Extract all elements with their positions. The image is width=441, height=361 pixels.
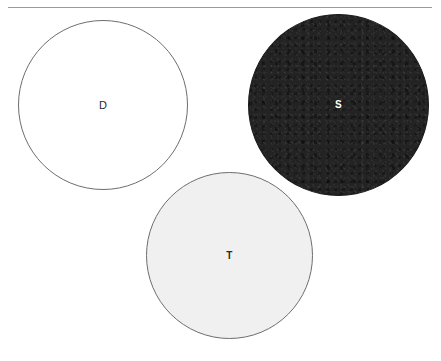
circle-d-label: D bbox=[99, 100, 107, 111]
circle-t-label: T bbox=[226, 251, 232, 261]
top-horizontal-rule bbox=[8, 7, 432, 8]
circle-d: D bbox=[18, 20, 188, 190]
circle-s: S bbox=[248, 14, 429, 196]
set-diagram-canvas: D S T bbox=[0, 0, 441, 361]
circle-t: T bbox=[146, 172, 313, 339]
circle-s-label: S bbox=[335, 100, 342, 110]
